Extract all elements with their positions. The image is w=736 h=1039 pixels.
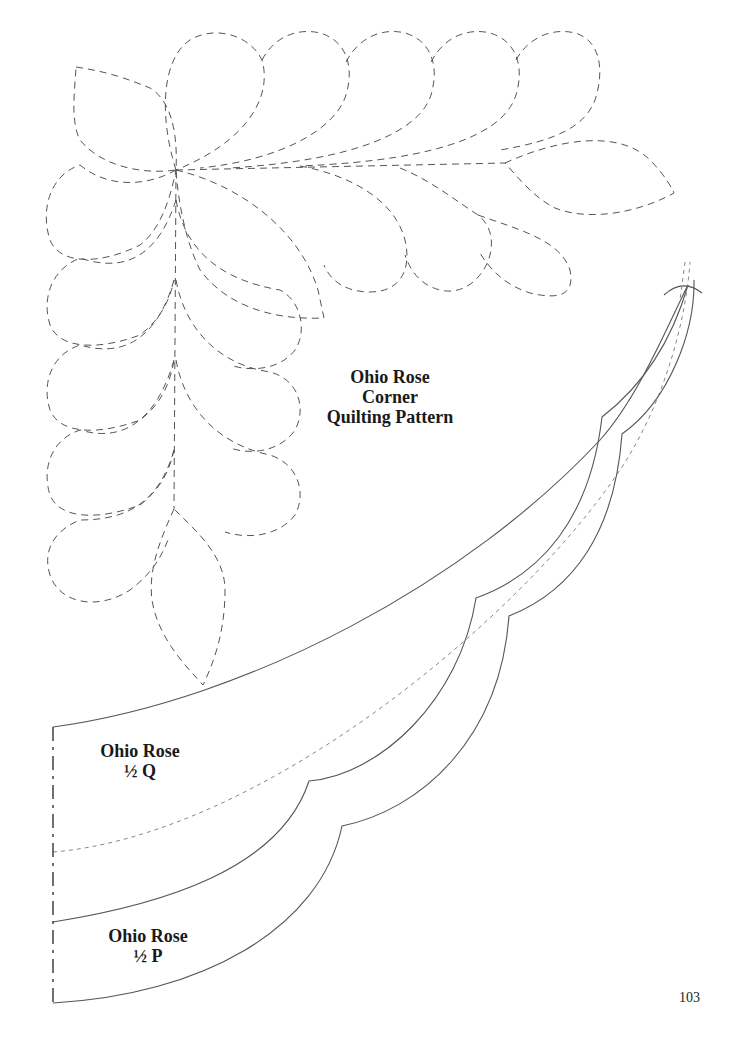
- feather-corner-motif: [46, 31, 674, 685]
- template-half-q: [53, 262, 690, 922]
- template-q-label: Ohio Rose ½ Q: [70, 741, 210, 781]
- quilting-pattern-artwork: [0, 0, 736, 1039]
- pattern-title: Ohio Rose Corner Quilting Pattern: [300, 367, 480, 427]
- pattern-page: Ohio Rose Corner Quilting Pattern Ohio R…: [0, 0, 736, 1039]
- tip-registration-mark: [664, 286, 702, 295]
- p-label-line-1: Ohio Rose: [78, 926, 218, 946]
- tip-dashed-mark: [680, 262, 685, 300]
- title-line-2: Corner: [300, 387, 480, 407]
- template-p-label: Ohio Rose ½ P: [78, 926, 218, 966]
- page-number: 103: [660, 990, 700, 1006]
- p-label-line-2: ½ P: [78, 946, 218, 966]
- q-label-line-1: Ohio Rose: [70, 741, 210, 761]
- title-line-1: Ohio Rose: [300, 367, 480, 387]
- q-label-line-2: ½ Q: [70, 761, 210, 781]
- title-line-3: Quilting Pattern: [300, 407, 480, 427]
